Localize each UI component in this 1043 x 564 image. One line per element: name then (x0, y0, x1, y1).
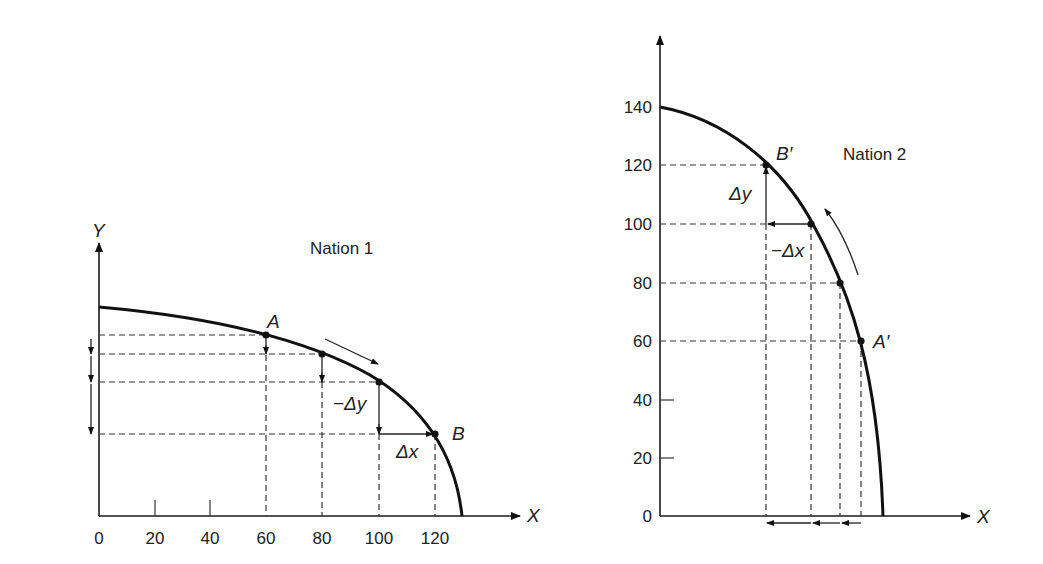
delta-x-label: Δx (395, 441, 420, 462)
point-b-label: B (452, 423, 465, 444)
delta-y-label: Δy (728, 183, 753, 204)
minus-delta-x-label: −Δx (771, 240, 806, 261)
nation2-title: Nation 2 (843, 145, 906, 164)
y-tick-label: 100 (624, 215, 652, 234)
nation1-x-axis-label: X (526, 505, 541, 526)
x-tick-label: 80 (313, 529, 332, 548)
point-b (431, 430, 438, 437)
y-tick-label: 140 (624, 98, 652, 117)
y-tick-label: 40 (633, 391, 652, 410)
point (375, 378, 382, 385)
minus-delta-y-label: −Δy (333, 393, 368, 414)
y-tick-label: 120 (624, 156, 652, 175)
nation1-y-axis-label: Y (92, 220, 106, 241)
x-tick-label: 0 (94, 529, 103, 548)
nation2-ppf-curve (660, 107, 883, 516)
nation1-panel: Y X 0 20 40 60 80 100 120 (91, 220, 541, 548)
nation2-y-tick-labels: 0 20 40 60 80 100 120 140 (624, 98, 652, 526)
point-a (262, 331, 269, 338)
nation1-title: Nation 1 (310, 239, 373, 258)
nation2-panel: X 0 20 40 60 80 100 120 140 (624, 36, 991, 527)
x-tick-label: 60 (257, 529, 276, 548)
point (836, 279, 843, 286)
point-b-prime-label: B′ (776, 143, 794, 164)
x-tick-label: 40 (201, 529, 220, 548)
y-tick-label: 0 (643, 507, 652, 526)
point-a-prime (857, 337, 864, 344)
point-b-prime (762, 161, 769, 168)
x-tick-label: 120 (421, 529, 449, 548)
ppf-diagram: Y X 0 20 40 60 80 100 120 (0, 0, 1043, 564)
movement-arrow-icon (825, 209, 858, 275)
nation1-x-tick-labels: 0 20 40 60 80 100 120 (94, 529, 449, 548)
point-a-label: A (266, 311, 280, 332)
x-tick-label: 20 (146, 529, 165, 548)
y-tick-label: 80 (633, 274, 652, 293)
y-tick-label: 60 (633, 332, 652, 351)
nation2-x-axis-label: X (976, 506, 991, 527)
point-a-prime-label: A′ (872, 331, 891, 352)
point (807, 220, 814, 227)
y-tick-label: 20 (633, 449, 652, 468)
point (318, 350, 325, 357)
x-tick-label: 100 (365, 529, 393, 548)
nation1-ppf-curve (99, 307, 462, 516)
movement-arrow-icon (325, 339, 378, 364)
